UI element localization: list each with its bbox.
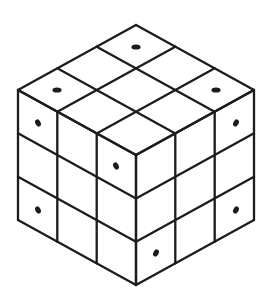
cube-drawing [0, 0, 273, 301]
top-face-dot-icon [211, 87, 220, 92]
top-face-dot-icon [52, 87, 61, 92]
top-face-dot-icon [131, 44, 140, 49]
cube-diagram [0, 0, 273, 301]
